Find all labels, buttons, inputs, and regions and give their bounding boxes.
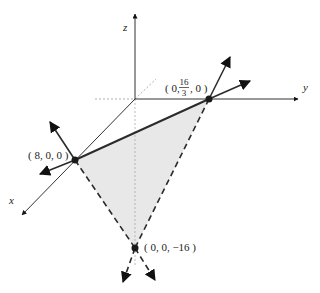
y-intercept-label: ( 0, 16 3 , 0 ) <box>165 77 208 98</box>
trace-yz-ext <box>123 248 135 282</box>
plane-diagram: z y x ( 8, 0, 0 ) ( 0, 0, −16 ) ( 0, 16 … <box>0 0 320 293</box>
plane-region <box>75 99 209 248</box>
svg-text:, 0 ): , 0 ) <box>190 82 208 95</box>
z-intercept-label: ( 0, 0, −16 ) <box>144 241 196 254</box>
point-z-intercept <box>132 245 139 252</box>
point-y-intercept <box>206 96 213 103</box>
svg-text:3: 3 <box>182 88 187 98</box>
point-x-intercept <box>72 157 79 164</box>
svg-text:16: 16 <box>180 77 190 87</box>
x-axis-label: x <box>8 194 14 206</box>
arrow-x-out <box>40 160 75 174</box>
z-axis-label: z <box>122 21 128 33</box>
arrow-y-out <box>209 81 250 99</box>
svg-text:( 0,: ( 0, <box>165 82 180 95</box>
arrow-y-up <box>209 57 230 99</box>
y-axis-label: y <box>302 81 308 93</box>
dotted-neg-x <box>135 79 156 99</box>
x-intercept-label: ( 8, 0, 0 ) <box>28 149 69 162</box>
